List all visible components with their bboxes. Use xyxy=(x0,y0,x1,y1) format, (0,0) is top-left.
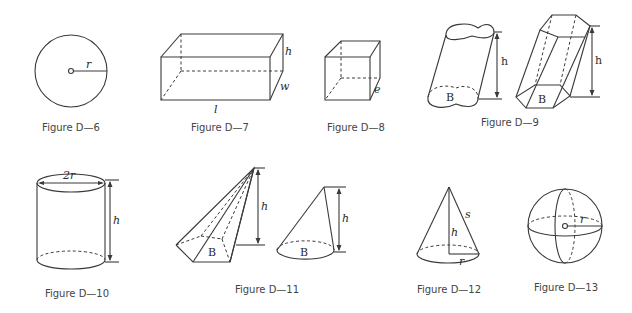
label-height-right: h xyxy=(595,54,602,67)
caption-figure-d11: Figure D—11 xyxy=(235,284,299,295)
figure-d8-cube: e xyxy=(325,41,381,100)
caption-figure-d13: Figure D—13 xyxy=(534,282,598,293)
label-height: h xyxy=(451,226,458,239)
label-edge: e xyxy=(374,83,381,96)
caption-figure-d9: Figure D—9 xyxy=(481,117,539,128)
label-width: w xyxy=(280,80,290,93)
caption-figure-d8: Figure D—8 xyxy=(327,122,385,133)
label-diameter: 2r xyxy=(62,169,76,182)
figure-d9-oblique-solids: B h B h xyxy=(428,15,602,108)
label-radius: r xyxy=(86,58,92,71)
label-radius: r xyxy=(580,213,586,226)
label-base-left: B xyxy=(446,91,454,104)
figure-d13-sphere: r xyxy=(528,189,602,263)
label-height: h xyxy=(285,45,292,58)
label-length: l xyxy=(214,103,218,116)
caption-figure-d7: Figure D—7 xyxy=(191,122,249,133)
label-height-right: h xyxy=(342,212,349,225)
label-height-left: h xyxy=(501,55,508,68)
label-radius: r xyxy=(459,255,465,268)
figure-d6-circle: r xyxy=(35,35,107,107)
figure-d10-cylinder: 2r h xyxy=(37,169,120,269)
label-height-left: h xyxy=(261,200,268,213)
label-height: h xyxy=(113,214,120,227)
label-slant: s xyxy=(465,208,471,221)
figure-d11-pyramid-cone: B h B h xyxy=(176,168,349,262)
caption-figure-d12: Figure D—12 xyxy=(417,284,481,295)
label-base-right: B xyxy=(300,246,308,259)
caption-figure-d6: Figure D—6 xyxy=(42,122,100,133)
label-base-left: B xyxy=(208,246,216,259)
caption-figure-d10: Figure D—10 xyxy=(45,288,109,299)
label-base-right: B xyxy=(538,93,546,106)
figure-d12-cone: s h r xyxy=(417,187,479,268)
geometry-figures: r h w l e B h xyxy=(0,0,632,313)
figure-d7-box: h w l xyxy=(161,34,292,116)
